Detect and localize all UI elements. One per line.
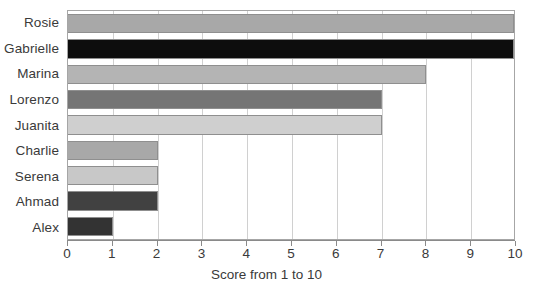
bar-row: [68, 214, 514, 239]
bar: [68, 191, 158, 210]
y-axis-label: Juanita: [0, 112, 63, 138]
bar: [68, 39, 514, 58]
x-axis-title: Score from 1 to 10: [0, 267, 533, 282]
bar: [68, 115, 382, 134]
bar-series: [68, 11, 514, 239]
bar: [68, 90, 382, 109]
bar-row: [68, 87, 514, 112]
bar-row: [68, 188, 514, 213]
x-axis-tick-label: 3: [198, 246, 206, 261]
bar-row: [68, 62, 514, 87]
x-axis-tick-label: 10: [507, 246, 522, 261]
bar: [68, 166, 158, 185]
x-axis-tick-label: 0: [63, 246, 71, 261]
y-axis-label: Alex: [0, 215, 63, 241]
x-axis-tick-label: 6: [332, 246, 340, 261]
y-axis-label: Gabrielle: [0, 36, 63, 62]
plot-area: [67, 10, 515, 240]
bar-row: [68, 138, 514, 163]
x-axis-tick-label: 1: [108, 246, 116, 261]
bar: [68, 14, 514, 33]
bar: [68, 65, 426, 84]
bar-row: [68, 112, 514, 137]
bar-chart: RosieGabrielleMarinaLorenzoJuanitaCharli…: [0, 0, 533, 291]
bar: [68, 141, 158, 160]
chart-title: [0, 0, 533, 1]
bar-row: [68, 11, 514, 36]
y-axis-category-labels: RosieGabrielleMarinaLorenzoJuanitaCharli…: [0, 10, 63, 240]
x-axis-tick-label: 4: [242, 246, 250, 261]
bar-row: [68, 36, 514, 61]
y-axis-label: Ahmad: [0, 189, 63, 215]
y-axis-label: Serena: [0, 163, 63, 189]
x-axis-tick-label: 2: [153, 246, 161, 261]
bar-row: [68, 163, 514, 188]
x-axis-tick-label: 5: [287, 246, 295, 261]
x-axis-tick-label: 8: [422, 246, 430, 261]
x-axis-tick-label: 7: [377, 246, 385, 261]
y-axis-label: Lorenzo: [0, 87, 63, 113]
y-axis-label: Rosie: [0, 10, 63, 36]
y-axis-label: Marina: [0, 61, 63, 87]
x-axis-tick-label: 9: [466, 246, 474, 261]
x-axis-tick-labels: 012345678910: [67, 246, 515, 266]
y-axis-label: Charlie: [0, 138, 63, 164]
bar: [68, 217, 113, 236]
